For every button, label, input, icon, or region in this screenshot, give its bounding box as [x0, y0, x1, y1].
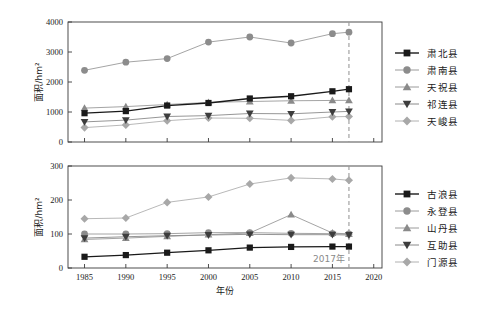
data-point-marker	[346, 243, 352, 249]
data-point-marker	[329, 88, 335, 94]
y-axis-tick-label: 300	[50, 161, 63, 171]
legend-item-label: 山丹县	[427, 221, 459, 235]
data-point-marker	[346, 29, 353, 36]
legend-marker-icon	[394, 204, 420, 218]
y-axis-tick-label: 2000	[46, 77, 63, 87]
data-point-marker	[163, 198, 171, 206]
legend-item[interactable]: 祁连县	[394, 95, 459, 112]
legend-swatch-square-icon	[394, 187, 420, 201]
x-axis-tick-label: 2015	[324, 272, 341, 282]
data-point-marker	[123, 108, 129, 114]
legend-item[interactable]: 山丹县	[394, 219, 459, 236]
data-point-marker	[403, 257, 412, 266]
data-point-marker	[164, 55, 171, 62]
legend-swatch-diamond-icon	[394, 255, 420, 269]
legend-item[interactable]: 互助县	[394, 236, 459, 253]
legend-marker-icon	[394, 63, 420, 77]
x-axis-title: 年份	[216, 285, 234, 296]
legend-bottom: 古浪县 永登县 山丹县 互助县 门源县	[394, 185, 459, 270]
legend-item-label: 祁连县	[427, 97, 459, 111]
y-axis-title: 面积/hm²	[33, 62, 44, 102]
legend-item[interactable]: 古浪县	[394, 185, 459, 202]
series-line	[85, 178, 349, 219]
x-axis-tick-label: 1995	[159, 272, 176, 282]
data-point-marker	[164, 250, 170, 256]
y-axis-tick-label: 1000	[46, 107, 63, 117]
legend-swatch-diamond-icon	[394, 114, 420, 128]
data-point-marker	[247, 95, 253, 101]
legend-item-label: 肃南县	[427, 63, 459, 77]
legend-swatch-triangle-up-icon	[394, 80, 420, 94]
legend-marker-icon	[394, 221, 420, 235]
legend-marker-icon	[394, 187, 420, 201]
legend-marker-icon	[394, 114, 420, 128]
legend-marker-icon	[394, 97, 420, 111]
data-point-marker	[404, 190, 411, 197]
legend-swatch-triangle-down-icon	[394, 238, 420, 252]
data-point-marker	[123, 252, 129, 258]
x-axis-tick-label: 1990	[117, 272, 134, 282]
legend-swatch-circle-icon	[394, 63, 420, 77]
data-point-marker	[247, 245, 253, 251]
legend-item[interactable]: 门源县	[394, 253, 459, 270]
y-axis-tick-label: 0	[59, 137, 63, 147]
plot-frame	[68, 166, 382, 268]
legend-item[interactable]: 肃北县	[394, 44, 459, 61]
x-axis-tick-label: 2010	[283, 272, 300, 282]
legend-item[interactable]: 永登县	[394, 202, 459, 219]
data-point-marker	[403, 66, 410, 73]
legend-item[interactable]: 肃南县	[394, 61, 459, 78]
legend-item-label: 天峻县	[427, 114, 459, 128]
data-point-marker	[287, 111, 295, 118]
data-point-marker	[122, 59, 129, 66]
data-point-marker	[403, 241, 412, 248]
data-point-marker	[328, 175, 336, 183]
data-point-marker	[404, 49, 411, 56]
data-point-marker	[403, 116, 412, 125]
y-axis-tick-label: 0	[59, 263, 63, 273]
legend-item[interactable]: 天峻县	[394, 112, 459, 129]
data-point-marker	[205, 247, 211, 253]
data-point-marker	[345, 176, 353, 184]
legend-item-label: 永登县	[427, 204, 459, 218]
data-point-marker	[329, 30, 336, 37]
legend-top: 肃北县 肃南县 天祝县 祁连县 天峻县	[394, 44, 459, 129]
legend-swatch-square-icon	[394, 46, 420, 60]
y-axis-tick-label: 4000	[46, 17, 63, 27]
data-point-marker	[403, 82, 412, 89]
data-point-marker	[81, 67, 88, 74]
legend-item-label: 肃北县	[427, 46, 459, 60]
legend-item-label: 互助县	[427, 238, 459, 252]
y-axis-title: 面积/hm²	[33, 197, 44, 237]
data-point-marker	[403, 100, 412, 107]
data-point-marker	[346, 86, 352, 92]
x-axis-tick-label: 2000	[200, 272, 217, 282]
legend-marker-icon	[394, 238, 420, 252]
y-axis-tick-label: 100	[50, 229, 63, 239]
data-point-marker	[287, 174, 295, 182]
data-point-marker	[345, 96, 353, 103]
x-axis-tick-label: 1985	[76, 272, 93, 282]
data-point-marker	[205, 39, 212, 46]
data-point-marker	[164, 102, 170, 108]
legend-swatch-circle-icon	[394, 204, 420, 218]
data-point-marker	[403, 207, 410, 214]
legend-marker-icon	[394, 80, 420, 94]
legend-swatch-triangle-down-icon	[394, 97, 420, 111]
data-point-marker	[329, 243, 335, 249]
data-point-marker	[403, 223, 412, 230]
data-point-marker	[288, 40, 295, 47]
x-axis-tick-label: 2020	[365, 272, 382, 282]
legend-item[interactable]: 天祝县	[394, 78, 459, 95]
legend-marker-icon	[394, 255, 420, 269]
data-point-marker	[204, 193, 212, 201]
data-point-marker	[80, 215, 88, 223]
data-point-marker	[288, 93, 294, 99]
data-point-marker	[287, 211, 295, 218]
data-point-marker	[122, 214, 130, 222]
data-point-marker	[81, 110, 87, 116]
data-point-marker	[246, 180, 254, 188]
y-axis-tick-label: 200	[50, 195, 63, 205]
data-point-marker	[81, 254, 87, 260]
data-point-marker	[329, 97, 337, 104]
